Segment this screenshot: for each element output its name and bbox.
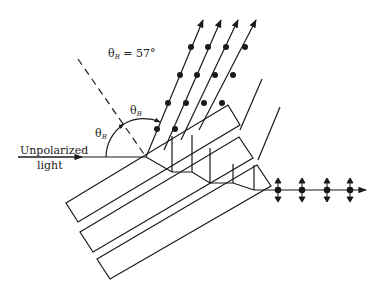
reflected-beam-3	[181, 20, 238, 140]
refracted-path	[146, 157, 254, 190]
subscript: B	[102, 133, 107, 141]
theta-symbol: θ	[95, 127, 102, 140]
theta-symbol: θ	[130, 104, 137, 117]
theta-symbol: θ	[108, 47, 115, 60]
reflected-beam-5	[240, 79, 262, 130]
input-label-line1: Unpolarized	[20, 144, 88, 157]
glass-plate-1	[66, 105, 240, 222]
perpendicular-polarization-dots	[154, 44, 248, 132]
reflected-beam-6	[258, 107, 280, 160]
subscript: B	[137, 110, 142, 118]
input-label-line2: light	[37, 159, 63, 172]
angle-label-reflection: θB	[130, 104, 142, 121]
angle-value: = 57°	[120, 47, 156, 60]
glass-plate-3	[97, 165, 271, 279]
angle-label-incidence: θB	[95, 127, 107, 144]
reflected-beam-1	[146, 20, 203, 157]
brewster-angle-value-label: θB = 57°	[108, 47, 156, 64]
angle-arc-incidence	[106, 124, 124, 157]
